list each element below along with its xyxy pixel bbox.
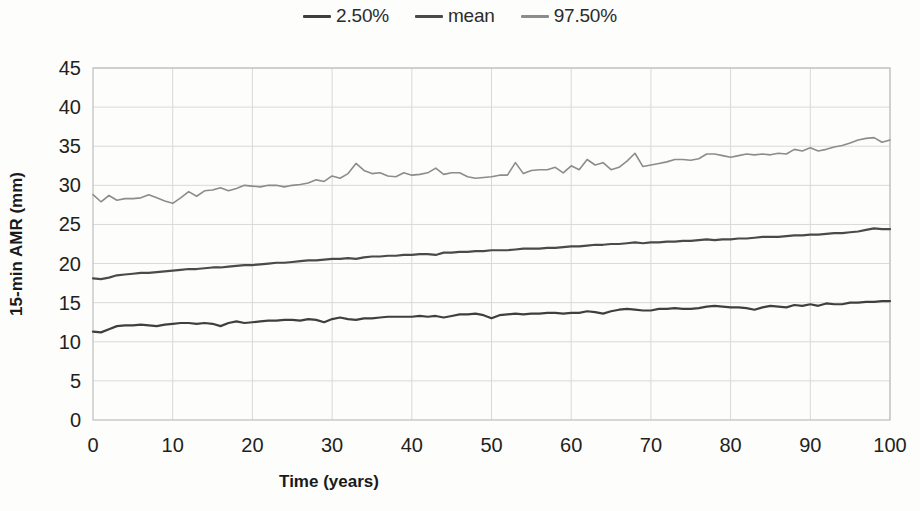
plot-area: 051015202530354045 010203040506070809010…: [0, 0, 920, 511]
y-tick-label: 35: [59, 135, 81, 157]
x-tick-label: 0: [87, 434, 98, 456]
x-tick-label: 70: [640, 434, 662, 456]
chart-container: 2.50% mean 97.50% 051015202530354045 010…: [0, 0, 920, 511]
x-axis-tick-labels: 0102030405060708090100: [87, 434, 906, 456]
x-tick-label: 90: [799, 434, 821, 456]
y-tick-label: 20: [59, 253, 81, 275]
y-axis-tick-labels: 051015202530354045: [59, 57, 81, 431]
x-tick-label: 80: [719, 434, 741, 456]
y-tick-label: 25: [59, 213, 81, 235]
x-axis-title: Time (years): [279, 472, 379, 491]
x-tick-label: 40: [401, 434, 423, 456]
x-tick-label: 50: [480, 434, 502, 456]
y-tick-label: 40: [59, 96, 81, 118]
y-tick-label: 0: [70, 409, 81, 431]
x-tick-label: 100: [873, 434, 906, 456]
x-tick-label: 30: [321, 434, 343, 456]
x-tick-label: 20: [241, 434, 263, 456]
y-tick-label: 5: [70, 370, 81, 392]
chart-svg: 051015202530354045 010203040506070809010…: [0, 0, 920, 511]
gridlines: [93, 68, 890, 420]
y-tick-label: 45: [59, 57, 81, 79]
y-tick-label: 10: [59, 331, 81, 353]
x-tick-label: 10: [162, 434, 184, 456]
y-tick-label: 15: [59, 292, 81, 314]
y-tick-label: 30: [59, 174, 81, 196]
y-axis-title: 15-min AMR (mm): [7, 172, 26, 316]
x-tick-label: 60: [560, 434, 582, 456]
